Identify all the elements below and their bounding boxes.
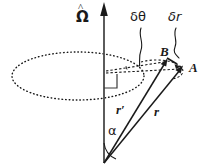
label-delta-r: δr	[168, 10, 181, 23]
label-point-b: B	[160, 45, 169, 58]
label-delta-theta: δθ	[130, 10, 146, 23]
label-point-a: A	[189, 61, 198, 74]
label-angle-alpha: α	[108, 124, 117, 137]
axis-hat-accent: ^	[78, 2, 83, 13]
label-vector-r-prime: r′	[116, 103, 125, 116]
vector-diagram	[0, 0, 208, 167]
label-vector-r: r	[154, 105, 159, 118]
